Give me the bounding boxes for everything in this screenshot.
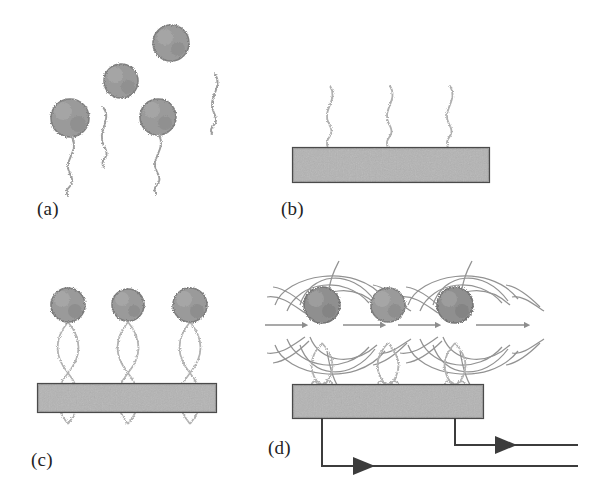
strand-a-tethered-1 — [67, 137, 74, 196]
panel-d-graphic — [265, 255, 595, 498]
particle-a-1 — [51, 99, 89, 137]
particle-c-3 — [173, 288, 207, 322]
particle-a-3 — [140, 99, 176, 135]
particle-c-2 — [112, 289, 144, 321]
substrate-d — [293, 385, 483, 418]
current-wire-upper — [455, 418, 578, 445]
particle-a-2 — [104, 64, 138, 98]
panel-a-graphic — [0, 0, 280, 230]
strand-b-1 — [327, 86, 333, 148]
particle-d-1 — [304, 287, 340, 323]
panel-b-graphic — [280, 0, 595, 230]
substrate-c — [38, 384, 216, 412]
panel-b-label: (b) — [281, 199, 304, 218]
panel-d-label: (d) — [268, 438, 291, 457]
strand-a-free-2 — [211, 74, 218, 134]
strand-b-2 — [387, 86, 393, 148]
panel-a: (a) — [0, 0, 280, 230]
particle-d-3 — [437, 287, 473, 323]
panel-c-label: (c) — [31, 450, 53, 469]
substrate-b — [293, 148, 489, 182]
particle-d-2 — [371, 288, 405, 322]
figure-canvas: (a) (b) — [0, 0, 595, 498]
strand-a-free-1 — [102, 107, 107, 168]
strand-a-tethered-2 — [155, 135, 162, 194]
particle-c-1 — [51, 288, 85, 322]
particle-a-4 — [153, 25, 189, 61]
panel-d: (d) — [265, 255, 595, 498]
strand-b-3 — [447, 86, 453, 148]
panel-c: (c) — [0, 255, 280, 498]
panel-b: (b) — [280, 0, 595, 230]
panel-a-label: (a) — [37, 199, 59, 218]
current-wire-lower — [322, 418, 578, 466]
